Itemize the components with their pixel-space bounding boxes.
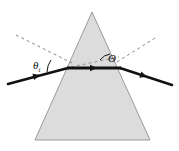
theta-i-subscript: i [38,66,40,74]
left-normal-dashed-line [16,35,72,63]
theta-i-label: θi [33,59,40,74]
incidence-angle-arc [47,60,51,72]
right-normal-dashed-line [117,38,155,62]
optics-diagram-figure: θi Θ [0,0,179,151]
diagram-canvas: θi Θ [0,0,179,151]
theta-capital-label: Θ [108,52,116,64]
triangular-prism [35,12,150,140]
